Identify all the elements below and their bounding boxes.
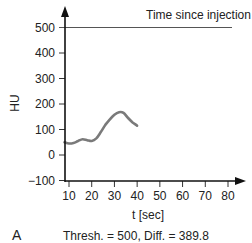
x-tick-label: 50 xyxy=(153,189,167,203)
x-tick-label: 40 xyxy=(130,189,144,203)
chart-title: Time since injection = 41 sec xyxy=(146,8,252,22)
x-axis-arrow-icon xyxy=(235,177,246,185)
x-tick-label: 30 xyxy=(108,189,122,203)
x-axis-label: t [sec] xyxy=(132,208,164,222)
x-tick-label: 10 xyxy=(62,189,76,203)
x-axis-ticks: 1020304050607080 xyxy=(62,181,235,203)
caption: Thresh. = 500, Diff. = 389.8 xyxy=(63,229,209,243)
y-tick-label: 0 xyxy=(48,148,55,162)
y-axis-ticks: −1000100200300400500 xyxy=(28,21,65,188)
chart: −1000100200300400500 1020304050607080 Ti… xyxy=(0,0,252,243)
y-tick-label: −100 xyxy=(28,174,55,188)
x-tick-label: 70 xyxy=(199,189,213,203)
x-tick-label: 20 xyxy=(85,189,99,203)
y-tick-label: 100 xyxy=(35,123,55,137)
y-tick-label: 500 xyxy=(35,21,55,35)
y-tick-label: 300 xyxy=(35,72,55,86)
x-tick-label: 60 xyxy=(176,189,190,203)
panel-label: A xyxy=(12,227,22,243)
y-tick-label: 200 xyxy=(35,97,55,111)
x-tick-label: 80 xyxy=(221,189,235,203)
y-axis-label: HU xyxy=(8,94,22,111)
y-tick-label: 400 xyxy=(35,46,55,60)
data-series-line xyxy=(65,112,138,144)
y-axis-arrow-icon xyxy=(61,6,69,17)
